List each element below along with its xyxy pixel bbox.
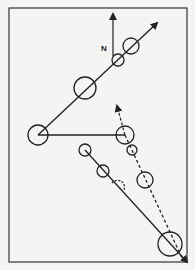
circle-marker (123, 38, 139, 54)
vector-diagram (0, 0, 195, 270)
dashed-path (125, 135, 182, 258)
dashed-arrow-up (117, 106, 125, 135)
north-label: N (101, 44, 107, 53)
circle-marker (97, 165, 109, 177)
horizontal-link (28, 125, 134, 145)
circle-marker (74, 77, 96, 99)
circle-marker (137, 172, 153, 188)
solid-path-upper (38, 23, 157, 135)
solid-path-lower (79, 144, 187, 262)
